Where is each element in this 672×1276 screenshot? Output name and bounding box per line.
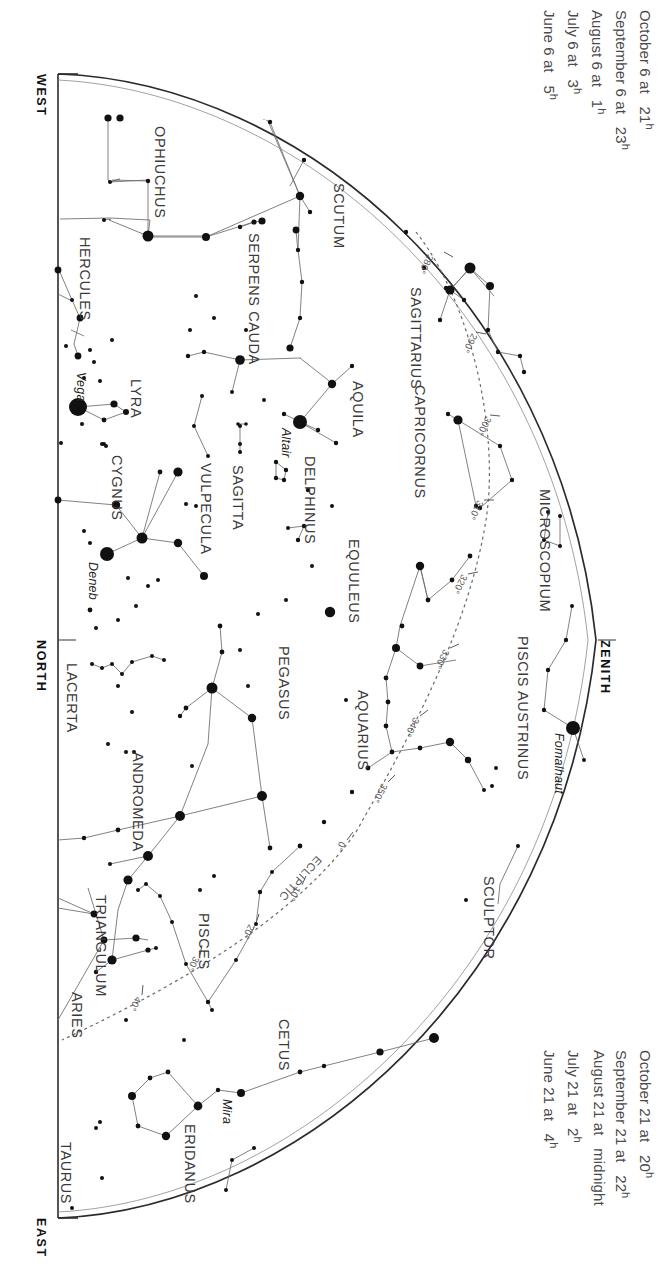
constellation-label-aquila: AQUILA [350, 381, 366, 438]
constellation-label-vulpecula: VULPECULA [198, 463, 214, 555]
constellation-label-piscis-austrinus: PISCIS AUSTRINUS [515, 636, 531, 780]
caption-top-line-line: August 6 at 1h [589, 10, 608, 114]
constellation-label-lyra: LYRA [128, 379, 144, 418]
caption-top-line-line: September 6 at 23h [613, 10, 632, 150]
caption-top-line-line: June 6 at 5h [541, 10, 560, 100]
caption-bottom-line-line: August 21 at midnight [591, 1050, 608, 1206]
caption-top-line-line: October 6 at 21h [637, 10, 656, 130]
constellation-label-capricornus: CAPRICORNUS [412, 385, 428, 499]
constellation-label-scutum: SCUTUM [331, 183, 347, 249]
caption-bottom-line-line: July 21 at 2h [565, 1050, 584, 1143]
star-label-altair: Altair [279, 428, 293, 458]
direction-label-north: NORTH [34, 640, 48, 692]
ecliptic-path [62, 232, 489, 1040]
ecliptic-ticks [142, 252, 500, 995]
constellation-label-sagitta: SAGITTA [230, 465, 246, 530]
constellation-label-ophiuchus: OPHIUCHUS [152, 126, 168, 218]
caption-bottom-line-line: September 21 at 22h [613, 1050, 632, 1198]
direction-label-zenith: ZENITH [598, 640, 612, 695]
caption-bottom-line-line: June 21 at 4h [541, 1050, 560, 1149]
constellation-label-andromeda: ANDROMEDA [130, 752, 146, 852]
caption-top-line-line: July 6 at 3h [565, 10, 584, 94]
constellation-label-eridanus: ERIDANUS [182, 1124, 198, 1204]
constellation-label-cetus: CETUS [276, 1019, 292, 1071]
constellation-label-delphinus: DELPHINUS [302, 456, 318, 544]
constellation-label-pegasus: PEGASUS [276, 646, 292, 720]
constellation-lines [58, 118, 584, 1190]
star-label-fomalhaut: Fomalhaut [552, 733, 566, 794]
constellation-label-taurus: TAURUS [58, 1142, 74, 1204]
constellation-label-aquarius: AQUARIUS [355, 690, 371, 771]
caption-bottom-line-line: October 21 at 20h [637, 1050, 656, 1178]
constellation-label-hercules: HERCULES [77, 237, 93, 321]
direction-label-west: WEST [34, 74, 48, 117]
constellation-label-sagittarius: SAGITTARIUS [408, 287, 424, 389]
star-label-vega: Vega [74, 372, 88, 402]
constellation-label-cygnus: CYGNUS [109, 455, 125, 521]
star-label-deneb: Deneb [86, 562, 100, 600]
constellation-label-triangulum: TRIANGULUM [93, 895, 109, 997]
star-label-mira: Mira [220, 1099, 234, 1124]
constellation-label-serpens-cauda: SERPENS CAUDA [246, 233, 262, 365]
constellation-label-lacerta: LACERTA [64, 663, 80, 733]
constellation-label-microscopium: MICROSCOPIUM [537, 489, 553, 612]
constellation-label-aries: ARIES [69, 992, 85, 1039]
star-field [55, 114, 586, 1210]
direction-label-east: EAST [34, 1218, 48, 1258]
constellation-label-sculptor: SCULPTOR [481, 876, 497, 960]
star-chart: WESTNORTHEASTZENITHOPHIUCHUSHERCULESSERP… [0, 0, 672, 1276]
constellation-label-equuleus: EQUULEUS [346, 539, 362, 624]
